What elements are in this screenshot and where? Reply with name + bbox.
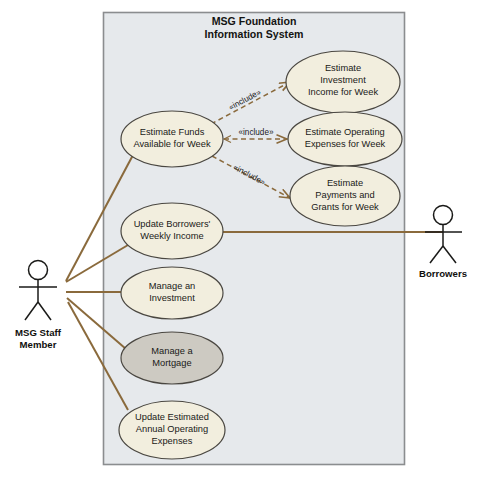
use-case-label-line: Estimate Operating (305, 127, 385, 137)
use-case-label-line: Grants for Week (311, 202, 379, 212)
system-title-line2: Information System (205, 28, 304, 40)
use-case-label-line: Expenses (152, 436, 193, 446)
use-case-label-line: Payments and (315, 190, 374, 200)
use-case-label-line: Estimate (327, 178, 363, 188)
actor-msg-staff-member[interactable]: MSG Staff Member (15, 261, 62, 351)
diagram-canvas: MSG Foundation Information System (0, 0, 485, 477)
use-case-update-estimated-annual-operating-expenses[interactable]: Update Estimated Annual Operating Expens… (119, 401, 225, 459)
use-case-label-line: Mortgage (152, 358, 191, 368)
actor-leg-left-icon (25, 302, 38, 320)
use-case-label-line: Estimate (325, 63, 361, 73)
use-case-label-line: Update Borrowers' (134, 219, 211, 229)
use-case-diagram: MSG Foundation Information System (0, 0, 485, 477)
actor-leg-left-icon (430, 246, 443, 263)
actor-label-line: Borrowers (419, 268, 467, 279)
use-case-label-line: Update Estimated (135, 412, 209, 422)
use-case-label-line: Available for Week (133, 139, 211, 149)
use-case-estimate-investment-income[interactable]: Estimate Investment Income for Week (286, 51, 400, 113)
use-case-label-line: Manage a (151, 346, 193, 356)
use-case-label-line: Annual Operating (136, 424, 208, 434)
use-case-label-line: Expenses for Week (305, 139, 386, 149)
actor-label-line: MSG Staff (15, 327, 62, 338)
actor-leg-right-icon (38, 302, 51, 320)
use-case-manage-an-investment[interactable]: Manage an Investment (121, 267, 223, 319)
include-label-operating-expenses: «include» (238, 128, 273, 137)
actor-label-line: Member (20, 339, 57, 350)
use-case-label-line: Investment (149, 293, 195, 303)
actor-head-icon (29, 261, 48, 280)
use-case-manage-a-mortgage[interactable]: Manage a Mortgage (121, 332, 223, 384)
use-case-estimate-payments-grants[interactable]: Estimate Payments and Grants for Week (290, 166, 400, 226)
use-case-label-line: Investment (320, 75, 366, 85)
use-case-label-line: Estimate Funds (140, 127, 205, 137)
actor-leg-right-icon (443, 246, 456, 263)
use-case-estimate-operating-expenses[interactable]: Estimate Operating Expenses for Week (288, 112, 402, 166)
use-case-label-line: Income for Week (308, 87, 378, 97)
use-case-label-line: Manage an (149, 281, 196, 291)
use-case-label-line: Weekly Income (140, 231, 203, 241)
use-case-update-borrowers-weekly-income[interactable]: Update Borrowers' Weekly Income (121, 203, 223, 259)
system-title-line1: MSG Foundation (212, 15, 297, 27)
actor-head-icon (434, 206, 453, 225)
use-case-estimate-funds-available[interactable]: Estimate Funds Available for Week (121, 111, 223, 167)
actor-borrowers[interactable]: Borrowers (419, 206, 467, 280)
